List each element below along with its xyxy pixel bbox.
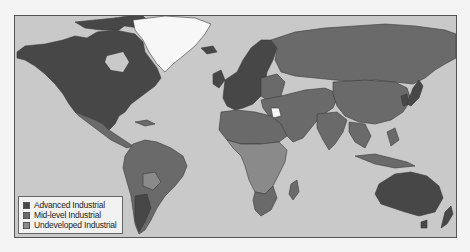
legend-swatch-mid-level bbox=[23, 212, 30, 219]
region-russia bbox=[271, 24, 456, 84]
legend-item-undeveloped: Undeveloped Industrial bbox=[23, 220, 117, 230]
region-no-data-middle-east bbox=[271, 108, 281, 118]
legend-label: Undeveloped Industrial bbox=[34, 220, 117, 230]
legend-item-advanced: Advanced Industrial bbox=[23, 200, 117, 210]
legend-label: Mid-level Industrial bbox=[34, 210, 101, 220]
map-legend: Advanced Industrial Mid-level Industrial… bbox=[18, 196, 123, 234]
legend-item-mid-level: Mid-level Industrial bbox=[23, 210, 117, 220]
world-map: Advanced Industrial Mid-level Industrial… bbox=[14, 15, 457, 238]
legend-label: Advanced Industrial bbox=[34, 200, 105, 210]
legend-swatch-undeveloped bbox=[23, 222, 30, 229]
legend-swatch-advanced bbox=[23, 202, 30, 209]
